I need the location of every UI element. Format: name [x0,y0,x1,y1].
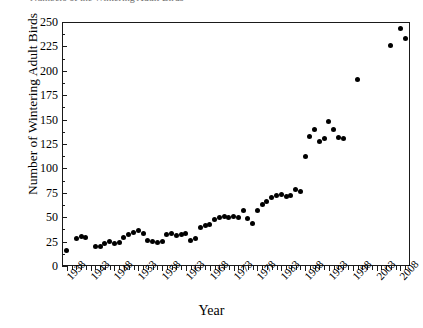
y-tick-label: 175 [24,90,58,100]
y-tick-mark [62,144,67,145]
y-tick-minor [62,83,65,84]
data-point [141,231,146,236]
plot-area [62,22,410,266]
y-tick-mark [62,46,67,47]
y-tick-mark [62,193,67,194]
y-tick-label: 225 [24,41,58,51]
y-tick-minor [62,254,65,255]
data-point [403,36,408,41]
y-tick-minor [62,229,65,230]
y-tick-label: 200 [24,66,58,76]
x-axis-label: Year [0,303,423,319]
y-tick-minor [62,181,65,182]
y-tick-label: 75 [24,188,58,198]
y-tick-minor [62,34,65,35]
y-tick-label: 25 [24,237,58,247]
data-point [160,239,165,244]
clipped-caption: Numbers of the Wintering Adult Birds [30,0,330,4]
y-tick-mark [62,242,67,243]
y-tick-minor [62,205,65,206]
data-point [207,222,212,227]
y-tick-mark [62,22,67,23]
chart-canvas: Numbers of the Wintering Adult Birds Num… [0,0,423,328]
y-tick-minor [62,156,65,157]
data-point [303,154,308,159]
y-tick-label: 50 [24,212,58,222]
data-point [117,240,122,245]
data-point [322,136,327,141]
y-tick-minor [62,59,65,60]
y-tick-mark [62,217,67,218]
data-point [312,127,317,132]
y-tick-minor [62,107,65,108]
y-tick-minor [62,132,65,133]
y-tick-label: 125 [24,139,58,149]
data-point [236,215,241,220]
y-tick-mark [62,168,67,169]
y-tick-mark [62,120,67,121]
data-point [341,136,346,141]
data-point [250,221,255,226]
y-tick-label: 150 [24,115,58,125]
y-tick-label: 250 [24,17,58,27]
y-tick-mark [62,95,67,96]
y-tick-label: 100 [24,163,58,173]
y-tick-label: 0 [24,261,58,271]
data-point [241,208,246,213]
data-point [255,208,260,213]
y-tick-mark [62,71,67,72]
